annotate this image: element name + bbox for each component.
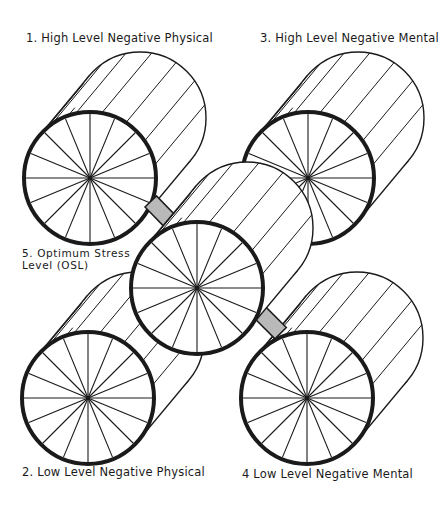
label-low-level-negative-physical: 2. Low Level Negative Physical (22, 465, 205, 479)
wheel-2 (22, 332, 154, 464)
label-high-level-negative-physical: 1. High Level Negative Physical (26, 31, 213, 45)
wheel-1 (24, 112, 156, 244)
label-high-level-negative-mental: 3. High Level Negative Mental (260, 31, 439, 45)
wheel-5 (131, 222, 263, 354)
label-low-level-negative-mental: 4 Low Level Negative Mental (242, 467, 413, 481)
wheel-4 (241, 332, 373, 464)
label-optimum-stress-level: 5. Optimum Stress Level (OSL) (22, 247, 130, 271)
